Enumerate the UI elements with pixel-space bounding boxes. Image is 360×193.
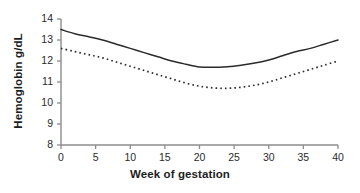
axis-lines	[61, 19, 338, 145]
x-tick-label: 5	[85, 151, 107, 163]
x-tick-label: 40	[327, 151, 349, 163]
hemoglobin-gestation-chart: 891011121314 0510152025303540 Hemoglobin…	[0, 0, 360, 193]
y-tick-label: 11	[35, 75, 53, 87]
x-tick-label: 10	[119, 151, 141, 163]
y-tick-label: 10	[35, 96, 53, 108]
plot-area	[0, 0, 360, 193]
y-tick-label: 8	[35, 138, 53, 150]
y-axis-title: Hemoglobin g/dL	[12, 16, 24, 146]
y-tick-label: 14	[35, 12, 53, 24]
x-tick-label: 20	[189, 151, 211, 163]
x-tick-label: 15	[154, 151, 176, 163]
series-dotted-line	[61, 48, 338, 88]
x-tick-label: 25	[223, 151, 245, 163]
y-tick-label: 9	[35, 117, 53, 129]
y-tick-label: 12	[35, 54, 53, 66]
x-tick-label: 30	[258, 151, 280, 163]
series-solid-line	[61, 30, 338, 68]
y-tick-label: 13	[35, 33, 53, 45]
x-axis-title: Week of gestation	[0, 168, 360, 180]
x-tick-label: 0	[50, 151, 72, 163]
x-tick-label: 35	[292, 151, 314, 163]
